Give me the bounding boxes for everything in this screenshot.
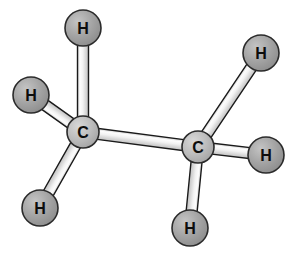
- atom-label: H: [255, 45, 267, 62]
- atom-h-h5: H: [248, 137, 284, 173]
- atom-label: H: [260, 147, 272, 164]
- atom-h-h6: H: [172, 210, 208, 246]
- molecule-diagram: CCHHHHHH: [0, 0, 295, 254]
- atom-label: H: [77, 20, 89, 37]
- molecule-canvas: CCHHHHHH: [0, 0, 295, 254]
- atom-c-c1: C: [67, 116, 99, 148]
- atom-h-h1: H: [65, 10, 101, 46]
- atom-h-h3: H: [22, 190, 58, 226]
- atom-label: C: [192, 139, 204, 156]
- atom-label: H: [184, 220, 196, 237]
- atom-h-h4: H: [243, 35, 279, 71]
- atom-label: H: [25, 87, 37, 104]
- atom-h-h2: H: [13, 77, 49, 113]
- atom-label: H: [34, 200, 46, 217]
- atom-label: C: [77, 124, 89, 141]
- atom-c-c2: C: [182, 131, 214, 163]
